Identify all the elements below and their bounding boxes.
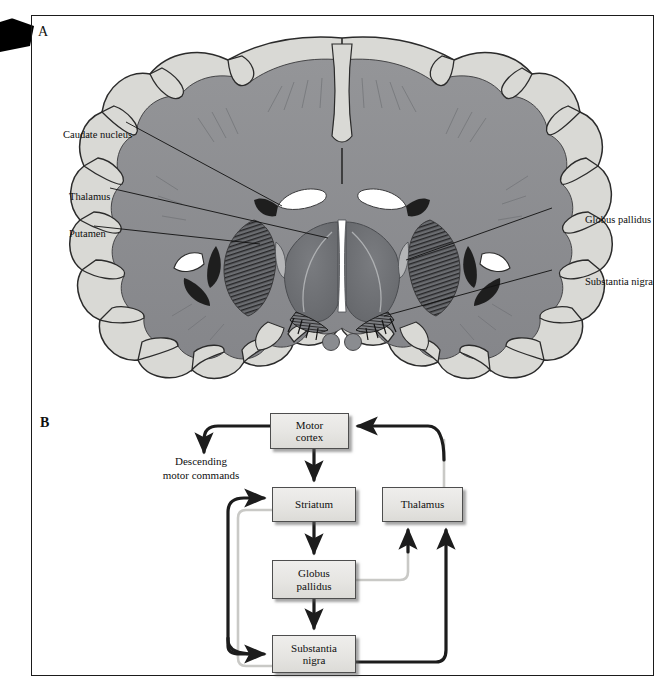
edge-striatum-to-nigra xyxy=(238,510,272,666)
descending-line-2: motor commands xyxy=(163,469,240,481)
edge-motorcortex-to-descending xyxy=(204,426,270,452)
basal-ganglia-circuit-diagram: Motor cortex Striatum Thalamus Globus pa… xyxy=(32,400,653,676)
medial-gray-matter xyxy=(332,44,352,142)
label-putamen: Putamen xyxy=(69,228,106,239)
mammillary-body-left xyxy=(323,334,340,351)
node-striatum[interactable]: Striatum xyxy=(272,487,356,522)
light-connector-paths xyxy=(238,440,444,666)
node-motor-cortex[interactable]: Motor cortex xyxy=(270,413,349,449)
node-nigra-line2: nigra xyxy=(287,654,341,666)
node-motor-cortex-line2: cortex xyxy=(292,431,328,443)
brain-illustration xyxy=(32,16,653,388)
descending-line-1: Descending xyxy=(175,455,227,467)
mammillary-body-right xyxy=(345,334,362,351)
node-nigra-line1: Substantia xyxy=(287,642,341,654)
node-globus-line1: Globus xyxy=(293,567,336,579)
node-motor-cortex-line1: Motor xyxy=(292,419,328,431)
edge-loop-into-nigra xyxy=(228,638,264,654)
edge-thalamus-to-motorcortex xyxy=(358,426,444,460)
figure-root: A xyxy=(0,0,670,694)
brain-coronal-section-panel: Caudate nucleus Thalamus Putamen Globus … xyxy=(32,16,653,388)
edge-nigra-to-striatum xyxy=(228,498,264,654)
edge-nigra-to-thalamus xyxy=(356,530,446,662)
node-striatum-line1: Striatum xyxy=(291,498,337,510)
label-globus-pallidus: Globus pallidus xyxy=(585,214,651,225)
node-thalamus[interactable]: Thalamus xyxy=(382,487,463,522)
node-thalamus-line1: Thalamus xyxy=(397,498,448,510)
label-substantia-nigra: Substantia nigra xyxy=(585,276,653,287)
label-thalamus: Thalamus xyxy=(69,191,110,202)
label-descending-motor-commands: Descending motor commands xyxy=(136,455,266,483)
edge-globus-to-thalamus xyxy=(356,532,408,580)
label-caudate-nucleus: Caudate nucleus xyxy=(63,129,132,140)
node-globus-pallidus[interactable]: Globus pallidus xyxy=(272,560,356,599)
node-substantia-nigra[interactable]: Substantia nigra xyxy=(272,635,356,673)
node-globus-line2: pallidus xyxy=(293,580,336,592)
